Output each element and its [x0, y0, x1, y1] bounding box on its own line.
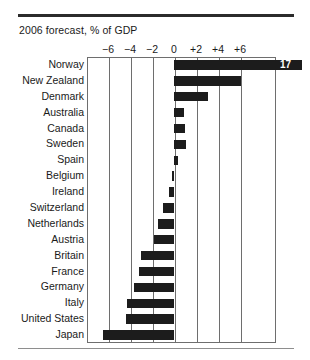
category-label: Canada	[47, 121, 84, 137]
bar	[158, 219, 175, 229]
bar	[163, 203, 174, 213]
chart-title: 2006 forecast, % of GDP	[19, 24, 137, 37]
x-axis-tick-labels: −6−4−20+2+4+6	[0, 42, 310, 56]
bar-row: Japan	[0, 327, 310, 343]
bar	[174, 76, 241, 86]
bar-row: Netherlands	[0, 216, 310, 232]
x-tick-label: +6	[234, 42, 246, 56]
category-label: Japan	[55, 327, 84, 343]
bar-row: Italy	[0, 295, 310, 311]
category-label: Netherlands	[27, 216, 84, 232]
bar	[174, 92, 208, 102]
top-divider-rule	[18, 14, 294, 17]
bar	[169, 187, 175, 197]
bar-row: Germany	[0, 279, 310, 295]
category-label: France	[51, 264, 84, 280]
bar-row: Austria	[0, 232, 310, 248]
bar-row: Denmark	[0, 89, 310, 105]
x-tick-label: 0	[171, 42, 177, 56]
bar	[174, 124, 185, 134]
bar	[103, 330, 175, 340]
x-tick-label: +4	[212, 42, 224, 56]
bar-row: France	[0, 264, 310, 280]
bar	[139, 267, 174, 277]
bar-value-label: 17	[278, 58, 293, 71]
category-label: Spain	[57, 152, 84, 168]
category-label: Austria	[51, 232, 84, 248]
category-label: United States	[21, 311, 84, 327]
bar-row: Britain	[0, 248, 310, 264]
category-label: Australia	[43, 105, 84, 121]
category-label: Italy	[65, 295, 84, 311]
category-label: Switzerland	[30, 200, 84, 216]
category-label: Denmark	[41, 89, 84, 105]
bar	[126, 314, 174, 324]
bar	[174, 156, 178, 166]
bar-row: Australia	[0, 105, 310, 121]
bottom-divider-rule	[18, 348, 294, 349]
bar-row: Spain	[0, 152, 310, 168]
bar-row: Ireland	[0, 184, 310, 200]
category-label: New Zealand	[22, 73, 84, 89]
category-label: Ireland	[52, 184, 84, 200]
bar-row: United States	[0, 311, 310, 327]
bar-row: Sweden	[0, 136, 310, 152]
x-tick-label: +2	[190, 42, 202, 56]
bar	[127, 299, 174, 309]
bar-rows: Norway17New ZealandDenmarkAustraliaCanad…	[0, 57, 310, 343]
bar-row: Switzerland	[0, 200, 310, 216]
x-tick-label: −4	[124, 42, 136, 56]
bar	[172, 171, 174, 181]
bar-row: Canada	[0, 121, 310, 137]
x-tick-label: −2	[146, 42, 158, 56]
bar	[134, 283, 174, 293]
bar-row: Belgium	[0, 168, 310, 184]
x-tick-label: −6	[102, 42, 114, 56]
bar-row: New Zealand	[0, 73, 310, 89]
bar-row: Norway17	[0, 57, 310, 73]
category-label: Belgium	[46, 168, 84, 184]
bar	[174, 108, 184, 118]
bar	[174, 140, 186, 150]
bar	[141, 251, 174, 261]
category-label: Sweden	[46, 136, 84, 152]
category-label: Norway	[48, 57, 84, 73]
bar	[154, 235, 174, 245]
chart-figure: 2006 forecast, % of GDP −6−4−20+2+4+6 No…	[0, 0, 310, 360]
category-label: Britain	[54, 248, 84, 264]
category-label: Germany	[41, 279, 84, 295]
